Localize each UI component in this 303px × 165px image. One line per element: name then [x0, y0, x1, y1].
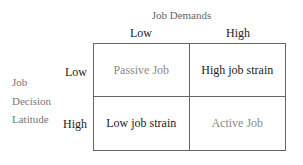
cell-high-job-strain: High job strain — [190, 44, 286, 97]
cell-low-job-strain: Low job strain — [94, 97, 190, 150]
x-axis-title: Job Demands — [0, 9, 303, 21]
column-label-high: High — [190, 26, 286, 41]
row-label-low: Low — [57, 65, 87, 80]
y-axis-title-line-2: Decision — [12, 95, 51, 107]
column-label-low: Low — [93, 26, 189, 41]
y-axis-title-line-3: Latitude — [12, 113, 49, 125]
quadrant-grid: Passive Job High job strain Low job stra… — [93, 43, 286, 151]
cell-passive-job: Passive Job — [94, 44, 190, 97]
y-axis-title-line-1: Job — [12, 76, 27, 88]
cell-active-job: Active Job — [190, 97, 286, 150]
row-label-high: High — [57, 117, 87, 132]
